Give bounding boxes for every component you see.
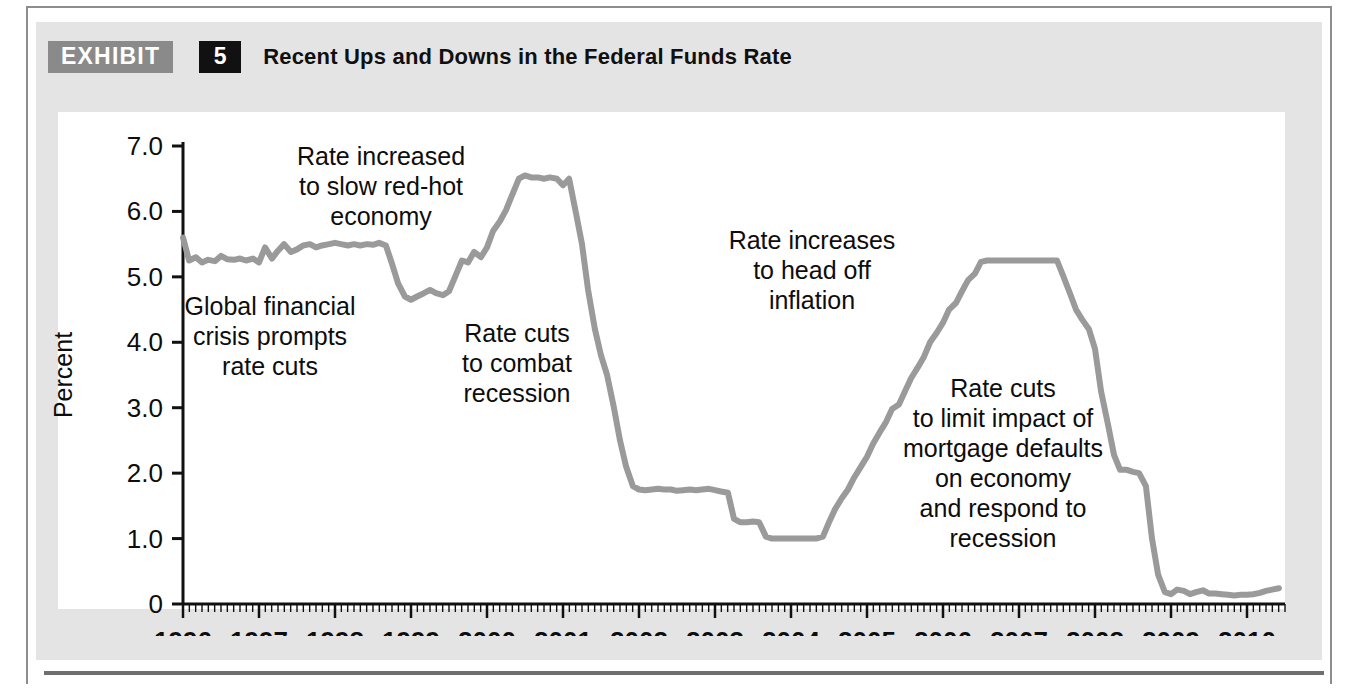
page-rule-left [26,6,28,684]
annotation-rate-increases-inflation: Rate increasesto head offinflation [729,226,896,314]
annotation-line: recession [950,524,1057,552]
page-rule-top [26,6,1332,8]
y-tick-label: 3.0 [127,393,163,423]
x-tick-label: 1996 [154,626,212,636]
y-tick-label: 6.0 [127,196,163,226]
x-tick-label: 2007 [990,626,1048,636]
exhibit-badge: EXHIBIT [48,41,173,73]
annotation-line: to limit impact of [913,404,1094,432]
annotation-line: Rate increases [729,226,896,254]
x-tick-label: 1997 [230,626,288,636]
annotation-line: crisis prompts [193,322,347,350]
y-tick-label: 1.0 [127,524,163,554]
x-tick-label: 2010 [1218,626,1276,636]
x-tick-label: 2003 [686,626,744,636]
annotation-global-financial-crisis: Global financialcrisis promptsrate cuts [185,292,356,380]
x-tick-label: 1999 [382,626,440,636]
exhibit-page: EXHIBIT 5 Recent Ups and Downs in the Fe… [0,0,1358,692]
y-tick-label: 7.0 [127,131,163,161]
annotation-line: and respond to [920,494,1087,522]
x-tick-label: 2001 [534,626,592,636]
caption-text [46,681,1326,692]
x-tick-label: 2006 [914,626,972,636]
exhibit-number-badge: 5 [199,41,241,73]
y-axis-label: Percent [49,332,77,418]
annotation-line: economy [330,202,432,230]
x-tick-label: 2008 [1066,626,1124,636]
annotation-line: rate cuts [222,352,318,380]
annotation-line: Rate cuts [464,319,570,347]
annotation-line: on economy [935,464,1072,492]
caption-divider [44,671,1324,675]
y-tick-label: 0 [149,589,163,619]
page-rule-right [1330,6,1332,684]
x-tick-label: 2009 [1142,626,1200,636]
y-tick-label: 5.0 [127,262,163,292]
x-tick-label: 1998 [306,626,364,636]
annotation-line: Rate increased [297,142,465,170]
exhibit-header: EXHIBIT 5 Recent Ups and Downs in the Fe… [48,40,792,74]
annotation-line: to slow red-hot [299,172,463,200]
annotation-line: Rate cuts [950,374,1056,402]
x-tick-label: 2000 [458,626,516,636]
y-tick-label: 4.0 [127,327,163,357]
annotation-line: mortgage defaults [903,434,1103,462]
federal-funds-rate-chart: 01.02.03.04.05.06.07.0Percent19961997199… [36,96,1322,636]
x-tick-label: 2004 [762,626,820,636]
x-tick-label: 2002 [610,626,668,636]
annotation-rate-cuts-mortgage: Rate cutsto limit impact ofmortgage defa… [903,374,1103,552]
y-tick-label: 2.0 [127,458,163,488]
exhibit-title: Recent Ups and Downs in the Federal Fund… [263,44,792,70]
annotation-rate-cuts-recession: Rate cutsto combatrecession [462,319,572,407]
annotation-line: recession [464,379,571,407]
annotation-line: to combat [462,349,572,377]
annotation-line: inflation [769,286,855,314]
x-tick-label: 2005 [838,626,896,636]
annotation-rate-increased: Rate increasedto slow red-hoteconomy [297,142,465,230]
annotation-line: to head off [753,256,871,284]
annotation-line: Global financial [185,292,356,320]
